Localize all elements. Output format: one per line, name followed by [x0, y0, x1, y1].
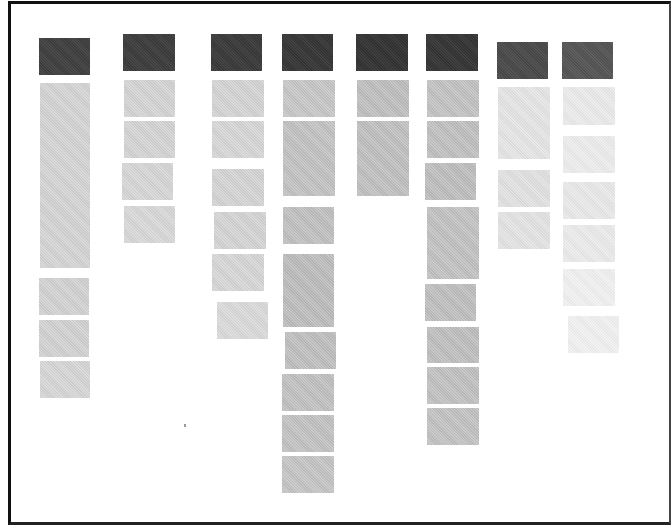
item-card[interactable] — [427, 207, 479, 279]
item-card[interactable] — [122, 163, 173, 200]
item-card[interactable] — [212, 169, 264, 206]
column-header-card[interactable] — [356, 34, 408, 71]
item-card[interactable] — [427, 121, 479, 158]
item-card[interactable] — [212, 80, 264, 117]
column-header-card[interactable] — [426, 34, 478, 71]
item-card[interactable] — [40, 361, 90, 398]
item-card[interactable] — [212, 254, 264, 291]
item-card[interactable] — [563, 87, 615, 125]
item-card[interactable] — [357, 121, 409, 196]
item-card[interactable] — [217, 302, 268, 339]
column-header-card[interactable] — [123, 34, 175, 71]
item-card[interactable] — [39, 278, 89, 315]
item-card[interactable] — [425, 163, 476, 200]
column-header-card[interactable] — [39, 38, 90, 75]
item-card[interactable] — [283, 254, 334, 327]
column-header-card[interactable] — [282, 34, 333, 71]
item-card[interactable] — [282, 415, 334, 452]
item-card[interactable] — [124, 80, 175, 117]
item-card[interactable] — [498, 170, 550, 207]
item-card[interactable] — [498, 212, 550, 249]
item-card[interactable] — [214, 212, 266, 249]
item-card[interactable] — [39, 320, 89, 357]
item-card[interactable] — [283, 207, 334, 244]
item-card[interactable] — [563, 269, 615, 306]
item-card[interactable] — [563, 182, 615, 219]
item-card[interactable] — [282, 456, 334, 493]
item-card[interactable] — [563, 136, 615, 173]
item-card[interactable] — [427, 408, 479, 445]
item-card[interactable] — [283, 121, 335, 196]
column-header-card[interactable] — [562, 42, 613, 79]
item-card[interactable] — [427, 80, 479, 117]
item-card[interactable] — [425, 284, 476, 321]
item-card[interactable] — [357, 80, 409, 117]
item-card[interactable] — [212, 121, 264, 158]
scan-speck — [184, 424, 186, 427]
item-card[interactable] — [498, 87, 550, 159]
item-card[interactable] — [427, 327, 479, 363]
item-card[interactable] — [124, 121, 175, 158]
item-card[interactable] — [568, 316, 619, 353]
item-card[interactable] — [563, 225, 615, 262]
item-card[interactable] — [285, 332, 336, 369]
item-card[interactable] — [124, 206, 175, 243]
item-card[interactable] — [40, 83, 90, 268]
column-header-card[interactable] — [211, 34, 262, 71]
item-card[interactable] — [283, 80, 335, 117]
column-header-card[interactable] — [497, 42, 548, 79]
item-card[interactable] — [427, 367, 479, 404]
item-card[interactable] — [282, 374, 334, 411]
